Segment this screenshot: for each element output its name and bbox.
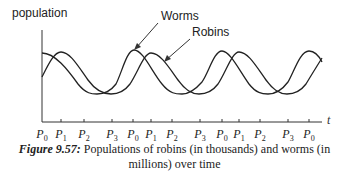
caption-line1: Populations of robins (in thousands) and… [84,142,330,156]
tick-label: P0 [303,127,314,143]
figure-number: Figure 9.57: [19,142,81,156]
tick-label: P1 [145,127,156,143]
tick-label: P0 [36,127,47,143]
tick-label: P3 [194,127,205,143]
tick-label: P1 [55,127,66,143]
tick-label: P1 [233,127,244,143]
x-axis-label: t [327,113,330,128]
caption-line2: millions) over time [129,157,221,171]
tick-label: P3 [282,127,293,143]
tick-label: P0 [216,127,227,143]
tick-label: P2 [254,127,265,143]
tick-label: P0 [127,127,138,143]
worms-arrow [136,23,158,48]
tick-label: P2 [78,127,89,143]
robins-curve [42,52,322,94]
tick-label: P3 [106,127,117,143]
tick-label: P2 [166,127,177,143]
figure-caption: Figure 9.57: Populations of robins (in t… [0,142,349,172]
worms-curve [42,50,322,94]
robins-arrow [166,39,190,60]
